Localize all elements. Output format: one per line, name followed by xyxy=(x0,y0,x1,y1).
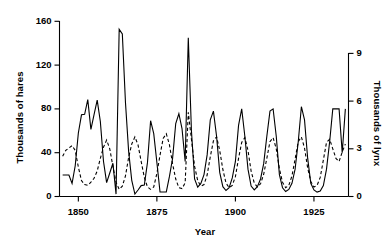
right-tick-label: 6 xyxy=(357,95,377,106)
data-series-group xyxy=(63,29,346,194)
left-tick-label: 40 xyxy=(14,146,52,157)
left-tick-label: 80 xyxy=(14,102,52,113)
bottom-tick-label: 1875 xyxy=(132,206,182,217)
right-tick-label: 0 xyxy=(357,190,377,201)
lynx-line xyxy=(63,112,346,189)
right-axis-title: Thousands of lynx xyxy=(372,59,383,189)
x-axis-title: Year xyxy=(150,226,260,237)
left-axis-ticks xyxy=(55,21,60,196)
left-axis-title: Thousands of hares xyxy=(14,53,25,183)
bottom-axis-ticks xyxy=(78,197,314,202)
hare-lynx-line-chart: Thousands of hares Thousands of lynx Yea… xyxy=(0,0,392,247)
right-axis-ticks xyxy=(349,53,354,196)
left-tick-label: 0 xyxy=(14,190,52,201)
left-tick-label: 120 xyxy=(14,59,52,70)
axis-lines xyxy=(60,21,349,197)
bottom-tick-label: 1925 xyxy=(289,206,339,217)
bottom-tick-label: 1850 xyxy=(53,206,103,217)
right-tick-label: 9 xyxy=(357,47,377,58)
right-tick-label: 3 xyxy=(357,142,377,153)
hares-line xyxy=(63,29,346,194)
left-tick-label: 160 xyxy=(14,15,52,26)
bottom-tick-label: 1900 xyxy=(210,206,260,217)
